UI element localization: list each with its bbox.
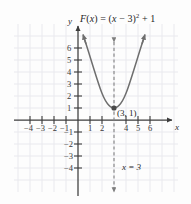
y-tick-label: 4 <box>67 68 71 77</box>
equation-exponent: 2 <box>136 12 139 19</box>
y-tick-label: 5 <box>67 56 71 65</box>
y-tick-label: −2 <box>64 140 73 149</box>
y-tick-label: −1 <box>64 128 73 137</box>
y-tick-label: 1 <box>67 104 71 113</box>
x-tick-label: −4 <box>24 124 33 133</box>
vertex-coordinate-label: (3, 1) <box>117 109 137 118</box>
parabola-graph-figure: F(x) = (x − 3)2 + 1 y x −4 −3 −2 −1 1 2 … <box>0 0 191 204</box>
vertex-point-icon <box>111 105 116 110</box>
x-axis-label: x <box>175 123 179 132</box>
x-tick-label: 6 <box>148 124 152 133</box>
y-tick-label: 3 <box>67 80 71 89</box>
grid-lines <box>14 24 178 192</box>
graph-canvas <box>0 0 191 204</box>
x-tick-label: 4 <box>124 124 128 133</box>
x-tick-label: 5 <box>136 124 140 133</box>
y-axis <box>74 26 82 196</box>
equation-minus: − 3) <box>119 13 136 24</box>
y-tick-label: −3 <box>64 152 73 161</box>
y-tick-label: 2 <box>67 92 71 101</box>
axis-of-symmetry-label: x = 3 <box>122 163 141 172</box>
x-tick-label: −2 <box>48 124 57 133</box>
symmetry-equation: x = 3 <box>122 162 141 172</box>
function-arg: x <box>90 13 95 24</box>
y-axis-label: y <box>68 17 72 26</box>
function-equation-label: F(x) = (x − 3)2 + 1 <box>80 14 155 24</box>
equation-var: x <box>112 13 117 24</box>
function-name: F <box>80 13 86 24</box>
equation-open: = ( <box>100 13 112 24</box>
x-tick-label: 1 <box>88 124 92 133</box>
equation-tail: + 1 <box>142 13 155 24</box>
y-tick-label: −4 <box>64 164 73 173</box>
y-tick-label: 6 <box>67 44 71 53</box>
x-tick-label: −3 <box>36 124 45 133</box>
x-tick-label: 2 <box>100 124 104 133</box>
